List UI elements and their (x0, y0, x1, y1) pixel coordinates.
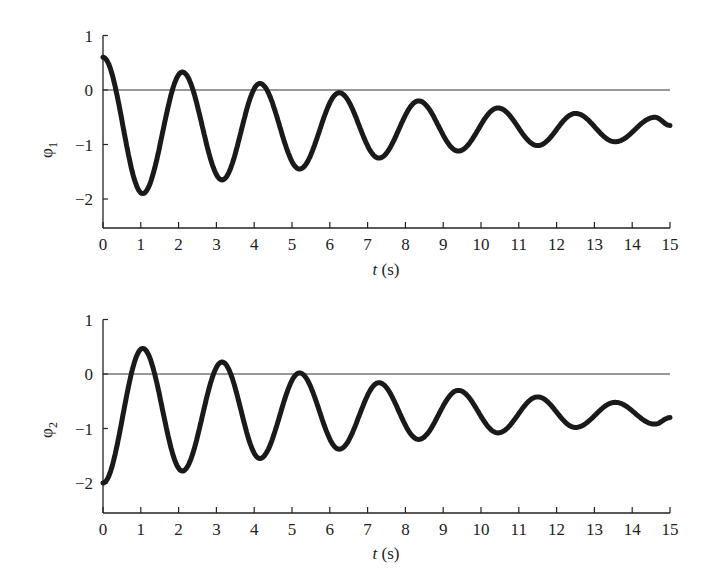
y-axis-label-phi1: φ1 (37, 142, 60, 158)
x-tick-label: 14 (624, 235, 642, 254)
x-tick-label: 3 (212, 520, 221, 539)
axes-phi1: 10−1−20123456789101112131415 (75, 27, 679, 255)
x-tick-label: 2 (174, 235, 183, 254)
phi1-curve (103, 57, 670, 193)
x-tick-label: 0 (99, 235, 108, 254)
x-tick-label: 3 (212, 235, 221, 254)
x-tick-label: 6 (326, 520, 335, 539)
plot-phi1: 10−1−20123456789101112131415 φ1 t (s) (37, 27, 679, 280)
x-tick-label: 9 (439, 235, 448, 254)
x-tick-label: 12 (548, 520, 565, 539)
figure: 10−1−20123456789101112131415 φ1 t (s) 10… (0, 0, 718, 583)
x-tick-label: 15 (662, 520, 679, 539)
y-tick-label: 1 (85, 311, 94, 330)
x-tick-label: 13 (586, 520, 603, 539)
y-tick-label: −2 (75, 474, 93, 493)
x-tick-label: 1 (137, 235, 146, 254)
x-tick-label: 2 (174, 520, 183, 539)
x-tick-label: 10 (473, 235, 490, 254)
x-tick-label: 8 (401, 520, 410, 539)
x-tick-label: 13 (586, 235, 603, 254)
y-tick-label: 1 (85, 27, 94, 46)
x-tick-label: 8 (401, 235, 410, 254)
x-tick-label: 7 (363, 520, 372, 539)
x-tick-label: 5 (288, 520, 297, 539)
y-tick-label: 0 (85, 365, 94, 384)
x-tick-label: 10 (473, 520, 490, 539)
x-tick-label: 6 (326, 235, 335, 254)
x-tick-label: 12 (548, 235, 565, 254)
series-line (103, 57, 670, 193)
x-axis-label-phi2: t (s) (373, 544, 400, 563)
x-tick-label: 7 (363, 235, 372, 254)
x-tick-label: 11 (511, 520, 527, 539)
x-tick-label: 14 (624, 520, 642, 539)
series-line (103, 348, 670, 483)
x-tick-label: 0 (99, 520, 108, 539)
x-tick-label: 4 (250, 235, 259, 254)
y-axis-label-phi2: φ2 (37, 422, 60, 438)
y-tick-label: −1 (75, 420, 93, 439)
x-tick-label: 1 (137, 520, 146, 539)
x-axis-label-phi1: t (s) (373, 260, 400, 279)
y-tick-label: −2 (75, 190, 93, 209)
x-tick-label: 5 (288, 235, 297, 254)
x-tick-label: 11 (511, 235, 527, 254)
y-tick-label: 0 (85, 81, 94, 100)
x-tick-label: 9 (439, 520, 448, 539)
x-tick-label: 4 (250, 520, 259, 539)
y-tick-label: −1 (75, 136, 93, 155)
x-tick-label: 15 (662, 235, 679, 254)
plot-phi2: 10−1−20123456789101112131415 φ2 t (s) (37, 311, 679, 564)
phi2-curve (103, 348, 670, 483)
